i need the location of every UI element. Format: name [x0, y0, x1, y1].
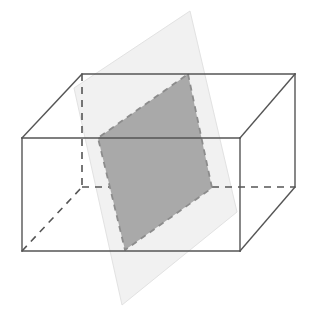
prism-edge-top-left-diagonal: [22, 74, 82, 138]
prism-edge-bottom-left-diagonal: [22, 187, 82, 251]
prism-edge-bottom-right-diagonal: [240, 187, 295, 251]
prism-plane-diagram: Plane intersecting a rectangular prism: [0, 0, 309, 318]
figure-container: Plane intersecting a rectangular prism: [0, 0, 309, 318]
prism-edge-top-right-diagonal: [240, 74, 295, 138]
